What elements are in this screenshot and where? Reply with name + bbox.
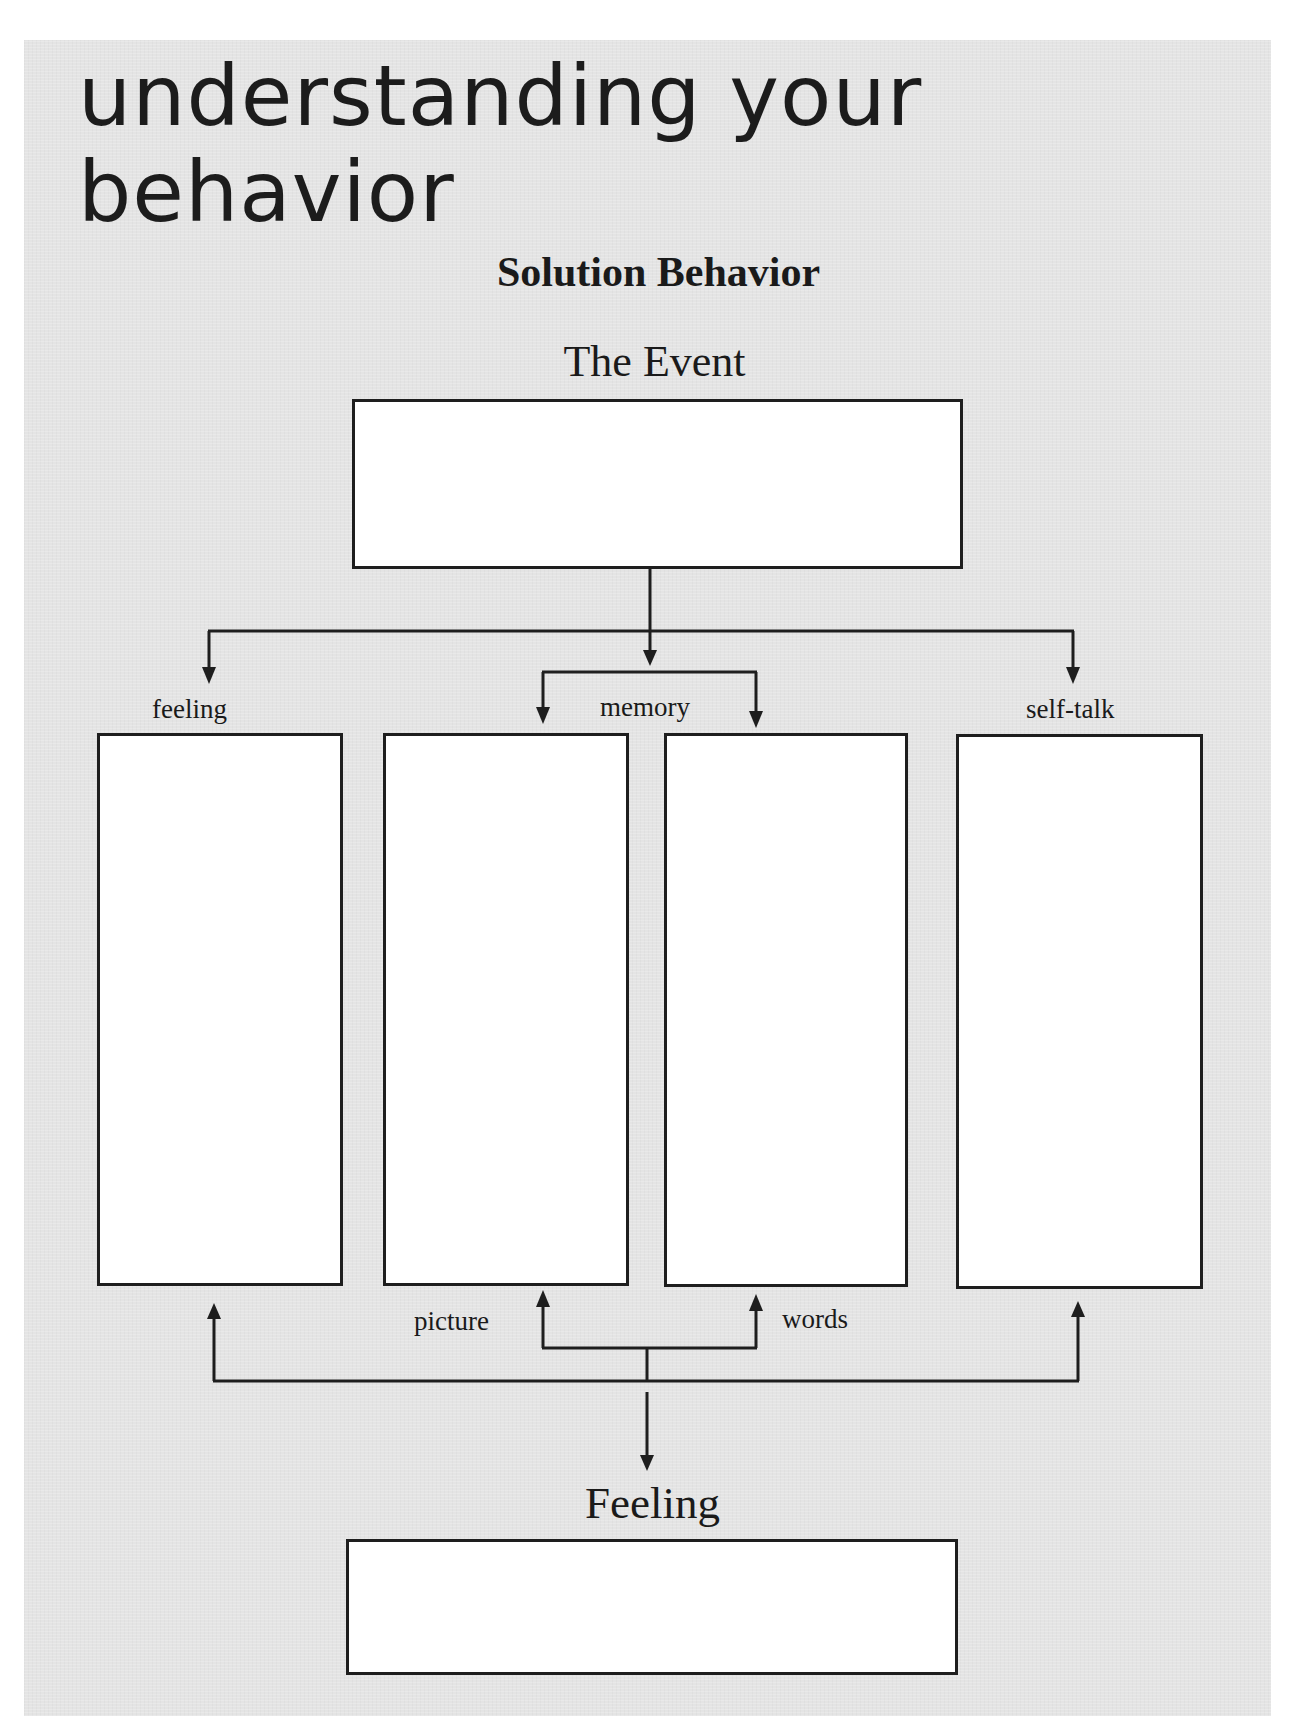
worksheet-subtitle: Solution Behavior [10,248,1297,296]
self-talk-branch-label: self-talk [1026,694,1114,724]
event-heading: The Event [6,336,1297,387]
memory-words-box[interactable] [664,733,908,1287]
memory-picture-box[interactable] [383,733,629,1286]
event-box[interactable] [352,399,963,569]
feeling-result-box[interactable] [346,1539,958,1675]
memory-branch-label: memory [600,692,690,722]
page-title-line-2: behavior [78,144,922,240]
page-title-line-1: understanding your [78,48,922,144]
feeling-column-box[interactable] [97,733,343,1286]
picture-label: picture [414,1306,489,1336]
page-title: understanding your behavior [78,48,922,240]
self-talk-column-box[interactable] [956,734,1203,1289]
words-label: words [782,1304,848,1334]
feeling-result-heading: Feeling [4,1477,1297,1529]
feeling-branch-label: feeling [152,694,227,724]
